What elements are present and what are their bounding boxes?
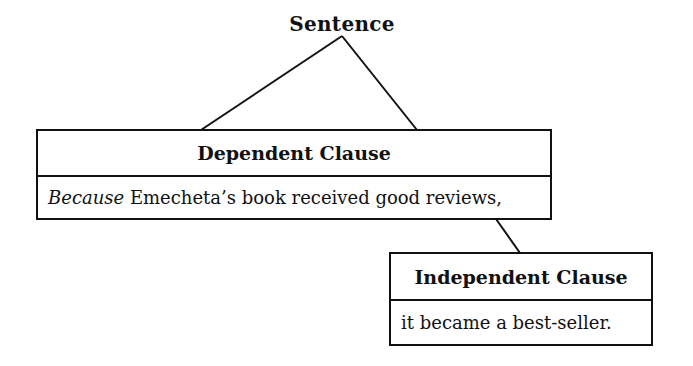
sentence-root-label: Sentence [280,12,404,36]
dependent-clause-box: Dependent Clause Because Emecheta’s book… [36,129,552,220]
edge-sentence-left [201,36,342,130]
dependent-clause-text: Because Emecheta’s book received good re… [38,177,550,218]
edge-sentence-right [342,36,417,130]
independent-clause-box: Independent Clause it became a best-sell… [389,252,653,346]
dependent-clause-title: Dependent Clause [38,131,550,177]
dependent-clause-rest: Emecheta’s book received good reviews, [124,187,502,208]
edge-dependent-independent [496,219,520,253]
independent-clause-title: Independent Clause [391,254,651,301]
subordinator-word: Because [48,187,124,208]
independent-clause-text: it became a best-seller. [391,301,651,344]
